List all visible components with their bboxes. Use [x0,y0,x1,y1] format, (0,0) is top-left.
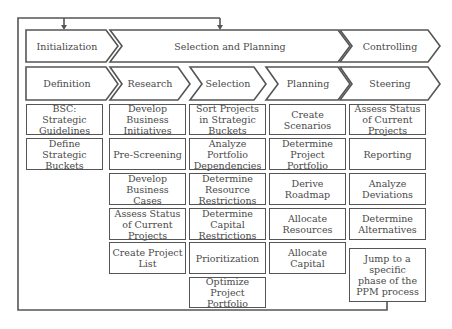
task-prioritization: Prioritization [189,242,266,274]
task-define-strategic-buckets: Define Strategic Buckets [26,138,103,170]
task-allocate-capital: Allocate Capital [269,242,346,274]
task-develop-business-initiatives: Develop Business Initiatives [109,104,186,135]
task-analyze-portfolio-dependencies: Analyze Portfolio Dependencies [189,138,266,170]
phase-label-controlling: Controlling [352,30,428,62]
subphase-label-definition: Definition [26,67,108,100]
task-develop-business-cases: Develop Business Cases [109,173,186,205]
task-create-project-list: Create Project List [109,242,186,274]
subphase-label-selection: Selection [202,67,254,100]
subphase-label-research: Research [122,67,178,100]
phase-label-selection-planning: Selection and Planning [122,30,338,62]
task-allocate-resources: Allocate Resources [269,208,346,240]
task-reporting: Reporting [349,138,426,170]
task-determine-resource-restrictions: Determine Resource Restrictions [189,173,266,205]
task-assess-status-current-projects: Assess Status of Current Projects [109,208,186,240]
jump-to-phase-box: Jump to a specific phase of the PPM proc… [349,248,426,302]
subphase-label-steering: Steering [352,67,428,100]
task-determine-project-portfolio: Determine Project Portfolio [269,138,346,170]
task-determine-capital-restrictions: Determine Capital Restrictions [189,208,266,240]
task-create-scenarios: Create Scenarios [269,104,346,135]
task-sort-projects-strategic-buckets: Sort Projects in Strategic Buckets [189,104,266,135]
task-determine-alternatives: Determine Alternatives [349,208,426,240]
subphase-label-planning: Planning [278,67,338,100]
task-derive-roadmap: Derive Roadmap [269,173,346,205]
phase-label-initialization: Initialization [26,30,108,62]
task-bsc-strategic-guidelines: BSC: Strategic Guidelines [26,104,103,135]
task-analyze-deviations: Analyze Deviations [349,173,426,205]
task-assess-status-current-projects-steering: Assess Status of Current Projects [349,104,426,135]
task-pre-screening: Pre-Screening [109,138,186,170]
task-optimize-project-portfolio: Optimize Project Portfolio [189,277,266,308]
